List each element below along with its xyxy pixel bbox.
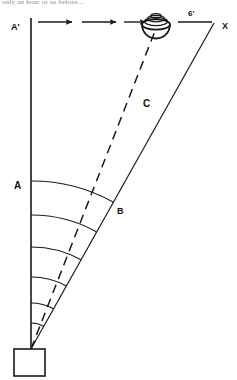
- distance-label-6ft: 6': [188, 10, 194, 18]
- sight-line-to-x: [31, 23, 214, 349]
- point-label-a: A: [14, 181, 21, 191]
- observer-box-icon: [14, 349, 45, 376]
- arc-4: [31, 277, 66, 286]
- flying-saucer-icon: [142, 14, 170, 39]
- arc-group: [31, 181, 113, 326]
- figure-canvas: only an hour or so before...: [0, 0, 237, 380]
- arc-2: [31, 215, 97, 232]
- point-label-x: X: [222, 22, 228, 31]
- geometry-diagram-svg: [0, 0, 237, 380]
- point-label-a-prime: A': [11, 23, 20, 32]
- arc-6-inner: [31, 323, 44, 326]
- point-label-b: B: [117, 207, 124, 216]
- arc-5: [31, 303, 54, 309]
- dashed-sight-line-c: [31, 31, 155, 349]
- point-label-c: C: [143, 99, 150, 109]
- arc-outer-1: [31, 181, 113, 202]
- arc-3: [31, 247, 81, 260]
